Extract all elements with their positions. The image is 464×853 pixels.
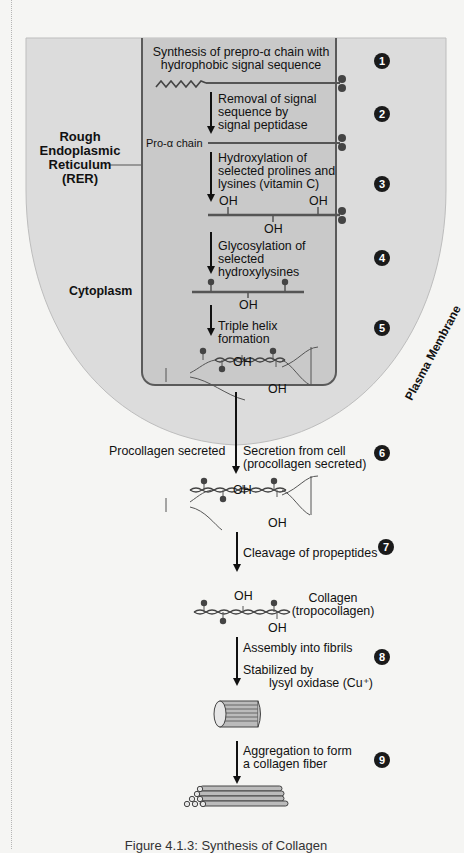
- oh-label: OH: [309, 195, 328, 208]
- step-number-4: 4: [374, 250, 390, 266]
- sugar-group: [208, 279, 214, 285]
- cytoplasm-label: Cytoplasm: [69, 285, 132, 298]
- arrow-head: [233, 564, 241, 572]
- ribosome: [338, 134, 346, 142]
- ribosome: [338, 143, 346, 151]
- rer-line-2: Endoplasmic: [30, 144, 130, 158]
- step-number-2: 2: [374, 106, 390, 122]
- arrow-head: [207, 126, 215, 134]
- step-3-line-3: lysines (vitamin C): [218, 178, 335, 191]
- pro-alpha-chain-label: Pro-α chain: [146, 137, 203, 150]
- step-5-line-2: formation: [218, 333, 277, 346]
- collagen-label: Collagen (tropocollagen): [288, 592, 378, 618]
- ribosome: [338, 207, 346, 215]
- step-number-5: 5: [374, 320, 390, 336]
- sugar-group: [282, 279, 288, 285]
- oh-label: OH: [268, 383, 287, 396]
- oh-label: OH: [239, 299, 258, 312]
- step-number-3: 3: [374, 176, 390, 192]
- rer-line-4: (RER): [30, 172, 130, 186]
- step-9-line-2: a collagen fiber: [243, 758, 352, 771]
- procollagen-secreted-label: Procollagen secreted: [109, 445, 225, 458]
- step-5-label: Triple helix formation: [218, 320, 277, 346]
- step-3-label: Hydroxylation of selected prolines and l…: [218, 152, 335, 191]
- step-1-label: Synthesis of prepro-α chain with hydroph…: [146, 46, 336, 72]
- ribosome: [338, 75, 346, 83]
- oh-label: OH: [264, 223, 283, 236]
- oh-label: OH: [233, 356, 252, 369]
- step-6-line-2: (procollagen secreted): [243, 458, 366, 471]
- step-number-9: 9: [374, 752, 390, 768]
- step-7-label: Cleavage of propeptides: [243, 547, 377, 560]
- arrow-head: [207, 328, 215, 336]
- step-2-label: Removal of signal sequence by signal pep…: [218, 93, 316, 132]
- step-9-label: Aggregation to form a collagen fiber: [243, 745, 352, 771]
- step-number-6: 6: [374, 445, 390, 461]
- rer-line-3: Reticulum: [30, 158, 130, 172]
- ribosome: [338, 84, 346, 92]
- step-4-line-3: hydroxylysines: [218, 266, 305, 279]
- step-8b-line-2: lysyl oxidase (Cu⁺): [243, 677, 373, 690]
- figure-caption: Figure 4.1.3: Synthesis of Collagen: [0, 838, 452, 853]
- oh-label: OH: [233, 484, 252, 497]
- rer-line-1: Rough: [30, 130, 130, 144]
- collagen-line-2: (tropocollagen): [288, 605, 378, 618]
- oh-label: OH: [268, 517, 287, 530]
- signal-sequence-zigzag: [156, 81, 206, 87]
- arrow-head: [233, 776, 241, 784]
- arrow-head: [232, 466, 240, 474]
- step-8-label: Assembly into fibrils: [243, 642, 352, 655]
- oh-label: OH: [234, 590, 253, 603]
- step-1-line-2: hydrophobic signal sequence: [146, 59, 336, 72]
- step-8-stabilized-label: Stabilized by lysyl oxidase (Cu⁺): [243, 664, 373, 690]
- rer-label: Rough Endoplasmic Reticulum (RER): [30, 130, 130, 186]
- collagen-fibril: [214, 701, 261, 727]
- ribosome: [338, 216, 346, 224]
- step-4-label: Glycosylation of selected hydroxylysines: [218, 240, 305, 279]
- step-number-1: 1: [374, 53, 390, 69]
- arrow-head: [207, 194, 215, 202]
- arrow-head: [207, 266, 215, 274]
- oh-label: OH: [219, 195, 238, 208]
- collagen-fiber: [184, 786, 288, 807]
- step-number-8: 8: [374, 649, 390, 665]
- step-6-label: Secretion from cell (procollagen secrete…: [243, 445, 366, 471]
- oh-label: OH: [268, 622, 287, 635]
- step-2-line-3: signal peptidase: [218, 119, 316, 132]
- arrow-head: [233, 678, 241, 686]
- step-number-7: 7: [378, 539, 394, 555]
